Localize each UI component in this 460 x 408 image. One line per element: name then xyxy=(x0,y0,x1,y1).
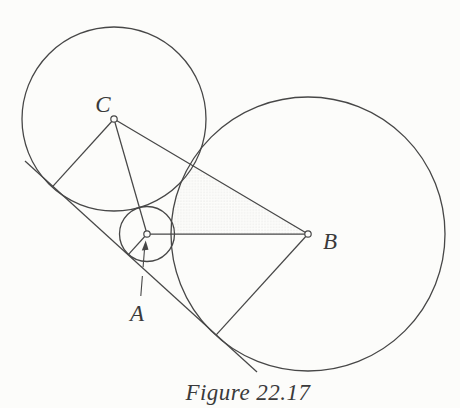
label-c: C xyxy=(95,92,111,117)
figure-22-17: C B A Figure 22.17 xyxy=(0,0,460,408)
center-marker-a xyxy=(144,231,150,237)
figure-caption: Figure 22.17 xyxy=(184,380,311,405)
label-a: A xyxy=(128,301,145,326)
center-marker-c xyxy=(111,116,117,122)
label-b: B xyxy=(323,229,337,254)
geometry-canvas: C B A Figure 22.17 xyxy=(0,0,460,408)
center-marker-b xyxy=(305,231,311,237)
